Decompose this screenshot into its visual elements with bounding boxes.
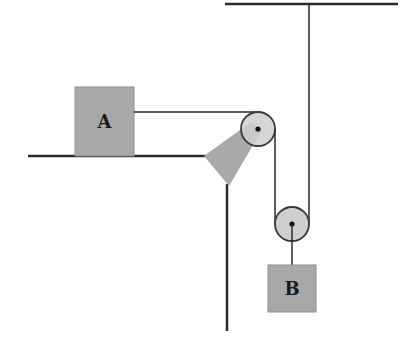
fixed-pulley bbox=[241, 112, 275, 146]
block-b-label: B bbox=[284, 278, 299, 299]
fixed-pulley-axle bbox=[255, 126, 260, 131]
block-a: A bbox=[75, 87, 134, 156]
block-b: B bbox=[268, 265, 316, 312]
block-a-label: A bbox=[97, 111, 113, 132]
pulley-diagram: A B bbox=[0, 0, 415, 352]
